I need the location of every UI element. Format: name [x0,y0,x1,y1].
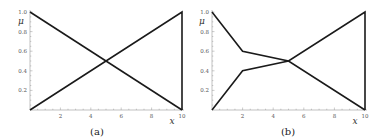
x-tick-label: 6 [302,113,306,119]
x-tick-label: 4 [271,113,275,119]
y-tick-label: 0.6 [18,48,27,54]
y-tick-label: 1.0 [18,9,27,15]
x-tick-label: 4 [89,113,93,119]
x-tick-label: 6 [119,113,123,119]
y-axis-label: μ [199,16,205,26]
y-tick-label: 0.4 [200,68,209,74]
panel-caption: (a) [90,126,104,137]
figure: 2468100.20.40.60.81.0μx(a) 2468100.20.40… [0,0,381,140]
x-tick-label: 8 [333,113,337,119]
y-tick-label: 0.8 [200,29,209,35]
x-tick-label: 2 [241,113,245,119]
y-tick-label: 0.2 [18,87,27,93]
x-tick-label: 8 [150,113,154,119]
y-tick-label: 1.0 [200,9,209,15]
panel-caption: (b) [281,126,295,137]
y-tick-label: 0.4 [18,68,27,74]
x-axis-label: x [352,116,357,126]
chart-panel-b: 2468100.20.40.60.81.0μx(b) [199,9,369,137]
y-tick-label: 0.2 [200,87,209,93]
y-tick-label: 0.6 [200,48,209,54]
y-axis-label: μ [18,16,24,26]
chart-panel-a: 2468100.20.40.60.81.0μx(a) [18,9,186,137]
y-tick-label: 0.8 [18,29,27,35]
x-tick-label: 2 [59,113,63,119]
x-tick-label: 10 [179,113,186,119]
x-axis-label: x [169,116,174,126]
x-tick-label: 10 [362,113,369,119]
